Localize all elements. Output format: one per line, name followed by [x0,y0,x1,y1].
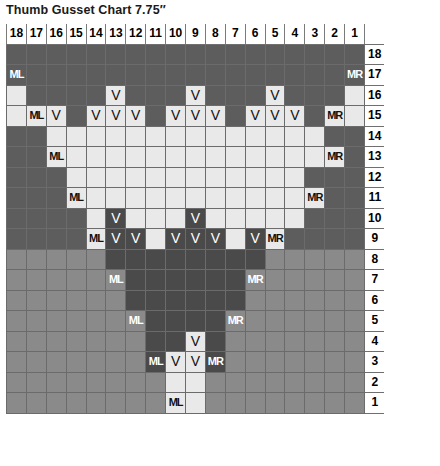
chart-cell-r9-c18 [7,229,27,250]
chart-cell-r18-c10 [166,44,186,65]
chart-cell-r10-c4 [285,208,305,229]
row-header-8: 8 [365,249,385,270]
chart-cell-r17-c2 [325,65,345,86]
chart-cell-r16-c6 [245,85,265,106]
chart-cell-r15-c15 [66,106,86,127]
chart-cell-r18-c3 [305,44,325,65]
chart-cell-r18-c13 [106,44,126,65]
chart-row-14: 14 [7,126,385,147]
chart-cell-r10-c18 [7,208,27,229]
header-corner-spacer [365,24,385,44]
chart-cell-r10-c13: V [106,208,126,229]
chart-cell-r14-c1 [345,126,365,147]
chart-cell-r3-c2 [325,352,345,373]
chart-cell-r1-c12 [126,393,146,414]
chart-cell-r3-c5 [265,352,285,373]
chart-cell-r12-c16 [46,167,66,188]
chart-cell-r18-c8 [205,44,225,65]
chart-cell-r1-c15 [66,393,86,414]
chart-cell-r8-c13 [106,249,126,270]
chart-cell-r15-c14: V [86,106,106,127]
chart-cell-r18-c2 [325,44,345,65]
chart-cell-r7-c12 [126,270,146,291]
chart-cell-r11-c10 [166,188,186,209]
row-header-9: 9 [365,229,385,250]
chart-cell-r4-c8 [205,331,225,352]
row-header-12: 12 [365,167,385,188]
chart-cell-r16-c8 [205,85,225,106]
chart-cell-r15-c5: V [265,106,285,127]
chart-cell-r6-c2 [325,290,345,311]
chart-cell-r8-c15 [66,249,86,270]
chart-cell-r11-c9 [186,188,206,209]
chart-cell-r17-c10 [166,65,186,86]
chart-cell-r10-c17 [26,208,46,229]
chart-cell-r13-c7 [225,147,245,168]
chart-cell-r9-c3 [305,229,325,250]
chart-cell-r6-c12 [126,290,146,311]
chart-row-11: MLMR11 [7,188,385,209]
chart-cell-r4-c2 [325,331,345,352]
column-header-row: 181716151413121110987654321 [7,24,385,44]
chart-cell-r11-c13 [106,188,126,209]
row-header-17: 17 [365,65,385,86]
chart-cell-r9-c16 [46,229,66,250]
chart-cell-r14-c10 [166,126,186,147]
chart-cell-r13-c1 [345,147,365,168]
chart-cell-r10-c8 [205,208,225,229]
chart-cell-r8-c12 [126,249,146,270]
chart-cell-r2-c5 [265,372,285,393]
row-header-5: 5 [365,311,385,332]
chart-cell-r9-c5: MR [265,229,285,250]
chart-cell-r10-c2 [325,208,345,229]
row-header-14: 14 [365,126,385,147]
chart-cell-r9-c15 [66,229,86,250]
chart-cell-r2-c8 [205,372,225,393]
chart-cell-r8-c18 [7,249,27,270]
row-header-16: 16 [365,85,385,106]
chart-cell-r16-c18 [7,85,27,106]
chart-cell-r4-c14 [86,331,106,352]
chart-cell-r2-c7 [225,372,245,393]
chart-cell-r18-c4 [285,44,305,65]
chart-cell-r12-c15 [66,167,86,188]
chart-cell-r1-c1 [345,393,365,414]
chart-cell-r10-c7 [225,208,245,229]
chart-cell-r8-c11 [146,249,166,270]
chart-cell-r2-c15 [66,372,86,393]
chart-cell-r16-c10 [166,85,186,106]
chart-cell-r15-c3 [305,106,325,127]
chart-cell-r14-c3 [305,126,325,147]
chart-cell-r12-c10 [166,167,186,188]
column-header-2: 2 [325,24,345,44]
chart-cell-r9-c11 [146,229,166,250]
chart-cell-r7-c1 [345,270,365,291]
chart-cell-r15-c6: V [245,106,265,127]
chart-cell-r13-c9 [186,147,206,168]
chart-cell-r14-c2 [325,126,345,147]
chart-cell-r16-c11 [146,85,166,106]
chart-cell-r16-c16 [46,85,66,106]
chart-cell-r14-c9 [186,126,206,147]
chart-cell-r17-c11 [146,65,166,86]
chart-cell-r2-c3 [305,372,325,393]
chart-cell-r8-c14 [86,249,106,270]
chart-cell-r9-c2 [325,229,345,250]
chart-cell-r6-c15 [66,290,86,311]
chart-cell-r11-c3: MR [305,188,325,209]
chart-cell-r4-c4 [285,331,305,352]
column-header-16: 16 [46,24,66,44]
chart-cell-r4-c12 [126,331,146,352]
column-header-18: 18 [7,24,27,44]
chart-cell-r16-c3 [305,85,325,106]
chart-cell-r9-c17 [26,229,46,250]
chart-cell-r11-c5 [265,188,285,209]
chart-cell-r15-c12: V [126,106,146,127]
chart-cell-r6-c17 [26,290,46,311]
chart-cell-r7-c5 [265,270,285,291]
row-header-1: 1 [365,393,385,414]
chart-cell-r15-c9: V [186,106,206,127]
chart-cell-r17-c6 [245,65,265,86]
chart-cell-r17-c13 [106,65,126,86]
chart-cell-r3-c8: MR [205,352,225,373]
